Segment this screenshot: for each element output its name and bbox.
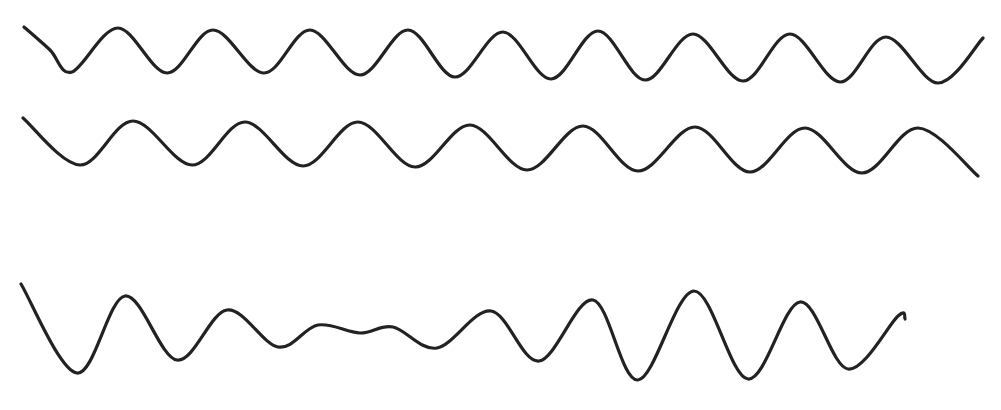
wave-1-regular-high-frequency xyxy=(24,27,983,83)
waveform-figure xyxy=(0,0,1001,410)
wave-2-regular-low-frequency xyxy=(23,118,978,176)
wave-3-beat-pattern xyxy=(21,284,905,380)
